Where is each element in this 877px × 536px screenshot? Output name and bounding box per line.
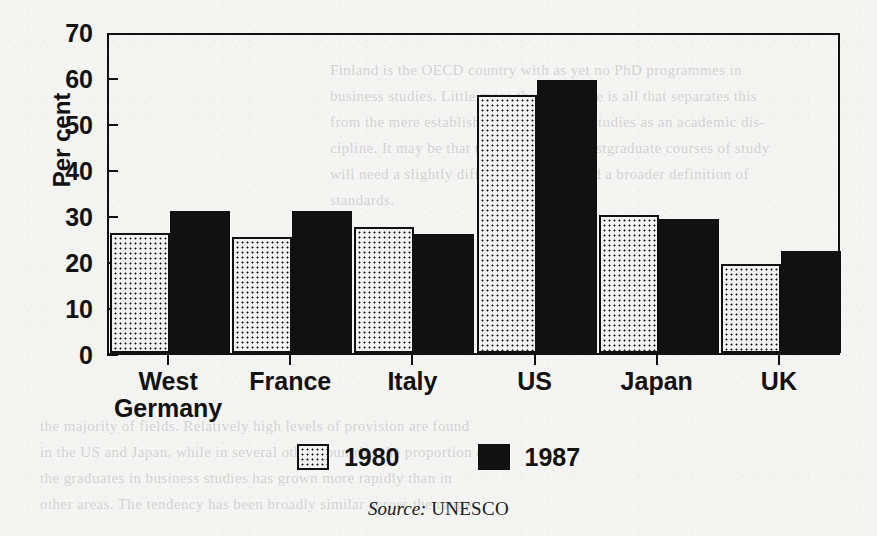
y-tick-label: 40 (49, 159, 93, 184)
source-prefix: Source: (368, 498, 426, 519)
bar-1987 (292, 211, 352, 353)
x-tick-mark (778, 353, 780, 365)
y-tick-label: 30 (49, 205, 93, 230)
legend-label: 1980 (344, 445, 400, 470)
bar-1980 (110, 233, 170, 353)
bar-1987 (659, 219, 719, 353)
bar-group (477, 80, 597, 353)
bar-1980 (599, 215, 659, 353)
y-tick-label: 60 (49, 67, 93, 92)
bar-1987 (781, 251, 841, 353)
chart-page: Finland is the OECD country with as yet … (0, 0, 877, 536)
x-tick-mark (411, 353, 413, 365)
source-name: UNESCO (431, 498, 509, 519)
plot-area (107, 33, 840, 355)
ghost-line: the graduates in business studies has gr… (40, 470, 452, 487)
x-tick-mark (289, 353, 291, 365)
legend-item-1987: 1987 (478, 444, 581, 470)
legend-swatch-1987 (478, 444, 510, 470)
x-tick-mark (167, 353, 169, 365)
x-tick-mark (534, 353, 536, 365)
y-tick-label: 50 (49, 113, 93, 138)
y-tick-label: 10 (49, 297, 93, 322)
x-category-label: UK (689, 368, 869, 395)
bar-group (232, 211, 352, 353)
y-tick-label: 0 (49, 343, 93, 368)
bar-1980 (354, 227, 414, 354)
legend: 19801987 (0, 444, 877, 470)
bar-group (721, 251, 841, 353)
bar-1987 (414, 234, 474, 353)
bar-1987 (537, 80, 597, 353)
legend-item-1980: 1980 (297, 444, 400, 470)
bar-group (354, 227, 474, 354)
legend-swatch-1980 (297, 444, 329, 470)
bar-1980 (477, 95, 537, 353)
bar-1980 (721, 264, 781, 353)
bar-1980 (232, 237, 292, 353)
bar-group (110, 211, 230, 353)
y-tick-label: 70 (49, 21, 93, 46)
bar-1987 (170, 211, 230, 353)
x-tick-mark (656, 353, 658, 365)
bar-group (599, 215, 719, 353)
source-note: Source: UNESCO (0, 498, 877, 520)
y-tick-label: 20 (49, 251, 93, 276)
legend-label: 1987 (525, 445, 581, 470)
